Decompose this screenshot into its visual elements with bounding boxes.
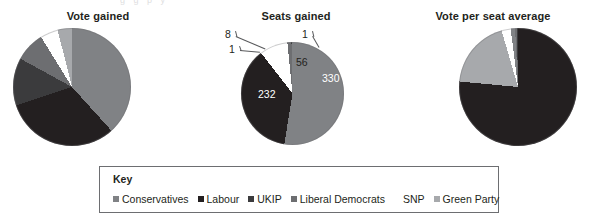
chart-seats-gained: Seats gained 330 232 56 8 1 1: [196, 0, 396, 152]
pie-label-232: 232: [258, 89, 276, 100]
legend-key-box: Key ConservativesLabourUKIPLiberal Democ…: [99, 166, 499, 213]
pie-wrap-vote-gained: [0, 27, 196, 152]
legend-swatch-icon: [434, 196, 440, 202]
legend-item-liberal-democrats[interactable]: Liberal Democrats: [291, 193, 385, 205]
chart-title-seats-gained: Seats gained: [196, 10, 396, 23]
legend-item-label: Labour: [207, 193, 240, 205]
pie-wrap-vote-per-seat-average: [396, 27, 590, 152]
legend-item-label: Liberal Democrats: [300, 193, 385, 205]
legend-item-ukip[interactable]: UKIP: [248, 193, 282, 205]
pie-label-1-green: 1: [302, 29, 308, 40]
legend-item-conservatives[interactable]: Conservatives: [113, 193, 189, 205]
chart-vote-per-seat-average: Vote per seat average: [396, 0, 590, 152]
legend-swatch-icon: [291, 196, 297, 202]
pie-label-8: 8: [225, 29, 231, 40]
legend-item-labour[interactable]: Labour: [198, 193, 240, 205]
chart-title-vote-per-seat-average: Vote per seat average: [396, 10, 590, 23]
legend-item-label: Conservatives: [122, 193, 189, 205]
legend-swatch-icon: [198, 196, 204, 202]
legend-swatch-icon: [394, 196, 400, 202]
pie-charts-row: Vote gained Seats gained 330 232 56 8 1 …: [0, 0, 590, 160]
leader-line-1-ukip: [240, 50, 260, 53]
pie-vote-per-seat-average: [459, 28, 577, 146]
chart-vote-gained: Vote gained: [0, 0, 196, 152]
pie-vote-gained: [13, 28, 131, 146]
legend-item-label: Green Party: [443, 193, 500, 205]
pie-seats-gained: [241, 42, 344, 145]
legend-swatch-icon: [113, 196, 119, 202]
legend-item-green-party[interactable]: Green Party: [434, 193, 500, 205]
pie-label-330: 330: [322, 73, 340, 84]
pie-wrap-seats-gained: 330 232 56 8 1 1: [196, 27, 396, 152]
legend-swatch-icon: [248, 196, 254, 202]
leader-line-1-green-tick: [312, 31, 314, 37]
legend-item-label: SNP: [403, 193, 425, 205]
pie-label-1-ukip: 1: [229, 44, 235, 55]
leader-line-8-tick: [235, 31, 237, 37]
legend-title: Key: [113, 173, 132, 185]
pie-label-56: 56: [296, 57, 308, 68]
legend-items: ConservativesLabourUKIPLiberal Democrats…: [113, 193, 490, 205]
legend-item-label: UKIP: [257, 193, 282, 205]
chart-title-vote-gained: Vote gained: [0, 10, 196, 23]
legend-item-snp[interactable]: SNP: [394, 193, 425, 205]
